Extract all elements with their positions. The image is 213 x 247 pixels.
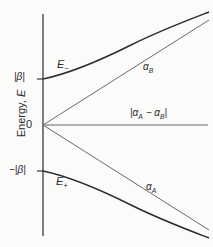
separation-label-minus: − — [143, 107, 154, 118]
separation-label-close: | — [165, 107, 168, 118]
energy-level-diagram: Energy, E |β| 0 −|β| E− E+ αB αA |αA − α… — [0, 0, 213, 247]
y-tick-label-beta-positive: |β| — [14, 72, 25, 82]
asymptote-label-alpha-b: αB — [143, 62, 153, 75]
curve-label-e-plus-sub: + — [63, 181, 67, 190]
asymptote-label-alpha-a: αA — [146, 182, 156, 195]
y-axis-title-prefix: Energy, — [15, 97, 27, 137]
curve-label-e-minus: E− — [57, 59, 69, 73]
y-tick-label-zero: 0 — [26, 119, 32, 130]
separation-label: |αA − αB| — [130, 108, 167, 121]
asymptote-label-alpha-a-sub: A — [152, 187, 157, 194]
curve-label-e-plus: E+ — [56, 176, 68, 190]
y-axis-title: Energy, E — [16, 71, 27, 157]
asymptote-label-alpha-b-sub: B — [149, 67, 154, 74]
y-tick-label-beta-negative: −|β| — [9, 165, 26, 175]
curve-label-e-minus-sub: − — [64, 64, 68, 73]
y-axis-title-symbol: E — [15, 90, 27, 97]
